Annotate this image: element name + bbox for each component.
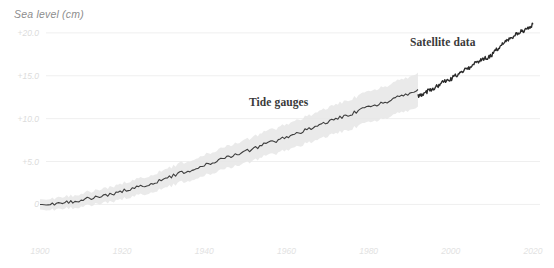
y-tick-label: +5.0 bbox=[3, 157, 39, 167]
x-tick-label: 1920 bbox=[102, 246, 142, 256]
x-tick-label: 1980 bbox=[349, 246, 389, 256]
x-tick-label: 1960 bbox=[267, 246, 307, 256]
x-tick-label: 2020 bbox=[513, 246, 553, 256]
x-tick-label: 1900 bbox=[20, 246, 60, 256]
uncertainty-band bbox=[40, 72, 418, 210]
y-tick-label: +10.0 bbox=[3, 114, 39, 124]
annotation-satellite-data: Satellite data bbox=[410, 36, 476, 48]
x-tick-label: 1940 bbox=[184, 246, 224, 256]
y-tick-label: +20.0 bbox=[3, 28, 39, 38]
sea-level-chart: Sea level (cm) 0+5.0+10.0+15.0+20.0 1900… bbox=[0, 0, 554, 268]
uncertainty-band-shape bbox=[40, 72, 418, 210]
y-tick-label: 0 bbox=[3, 199, 39, 209]
y-tick-label: +15.0 bbox=[3, 71, 39, 81]
annotation-tide-gauges: Tide gauges bbox=[249, 96, 308, 108]
satellite-line bbox=[418, 23, 533, 97]
x-tick-label: 2000 bbox=[431, 246, 471, 256]
gridlines bbox=[46, 33, 540, 205]
